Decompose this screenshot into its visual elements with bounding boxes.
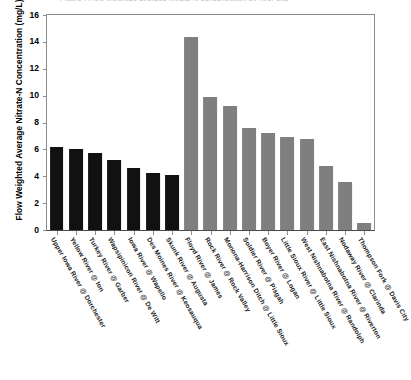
- y-tick: 2: [0, 203, 46, 204]
- x-tick-mark: [345, 231, 346, 235]
- x-axis-label: Yellow River @ Ion: [69, 236, 106, 293]
- bar-slot: [143, 15, 162, 230]
- bar: [338, 182, 352, 230]
- bar: [69, 149, 83, 230]
- bar: [223, 106, 237, 230]
- x-tick-mark: [249, 231, 250, 235]
- y-tick-label: 2: [34, 198, 39, 208]
- bar: [146, 173, 160, 230]
- x-tick-mark: [211, 231, 212, 235]
- bar-slot: [278, 15, 297, 230]
- y-tick: 0: [0, 230, 46, 231]
- y-tick-mark: [43, 203, 47, 204]
- bar: [184, 37, 198, 231]
- bar-slot: [259, 15, 278, 230]
- bar: [261, 133, 275, 230]
- y-tick-label: 0: [34, 225, 39, 235]
- y-tick-mark: [43, 96, 47, 97]
- y-tick-label: 6: [34, 144, 39, 154]
- bar-slot: [124, 15, 143, 230]
- bar-slot: [316, 15, 335, 230]
- x-tick-mark: [134, 231, 135, 235]
- bar-slot: [201, 15, 220, 230]
- x-tick-mark: [153, 231, 154, 235]
- x-tick-mark: [114, 231, 115, 235]
- x-tick-mark: [287, 231, 288, 235]
- bar: [242, 128, 256, 230]
- y-tick-label: 4: [34, 171, 39, 181]
- bar: [204, 97, 218, 230]
- x-tick-mark: [230, 231, 231, 235]
- bar-slot: [105, 15, 124, 230]
- y-tick: 12: [0, 69, 46, 70]
- y-tick-label: 12: [29, 63, 39, 73]
- bar-slot: [239, 15, 258, 230]
- x-axis-label: Floyd River @ James: [184, 236, 225, 300]
- bar-slot: [297, 15, 316, 230]
- y-tick-mark: [43, 230, 47, 231]
- x-tick-mark: [76, 231, 77, 235]
- x-tick-mark: [307, 231, 308, 235]
- bar: [50, 147, 64, 230]
- x-tick-mark: [364, 231, 365, 235]
- y-tick: 10: [0, 96, 46, 97]
- x-tick-mark: [191, 231, 192, 235]
- y-tick-mark: [43, 42, 47, 43]
- y-tick-mark: [43, 176, 47, 177]
- y-tick-mark: [43, 149, 47, 150]
- y-tick: 14: [0, 42, 46, 43]
- x-tick-mark: [57, 231, 58, 235]
- y-tick-mark: [43, 69, 47, 70]
- y-tick-mark: [43, 15, 47, 16]
- x-tick-mark: [95, 231, 96, 235]
- y-tick-mark: [43, 123, 47, 124]
- y-tick-label: 14: [29, 36, 39, 46]
- y-tick-label: 10: [29, 90, 39, 100]
- bar: [107, 160, 121, 230]
- bar-slot: [355, 15, 374, 230]
- bar: [88, 153, 102, 230]
- y-tick: 16: [0, 15, 46, 16]
- bar-slot: [220, 15, 239, 230]
- bars-layer: [47, 15, 374, 230]
- bar-slot: [47, 15, 66, 230]
- x-tick-mark: [268, 231, 269, 235]
- bar: [127, 168, 141, 230]
- y-tick-label: 16: [29, 10, 39, 20]
- x-axis-labels: Upper Iowa River @ DorchesterYellow Rive…: [47, 236, 374, 380]
- bar: [281, 137, 295, 230]
- y-axis-title: Flow Weighted Average Nitrate-N Concentr…: [14, 0, 24, 225]
- bar-slot: [66, 15, 85, 230]
- x-tick-mark: [326, 231, 327, 235]
- clipped-figure-title: Figure . Flow weighted average nitrate-N…: [60, 0, 360, 1]
- bar: [165, 175, 179, 230]
- bar-slot: [182, 15, 201, 230]
- y-tick-label: 8: [34, 117, 39, 127]
- bar: [319, 166, 333, 231]
- bar-slot: [336, 15, 355, 230]
- bar: [300, 139, 314, 230]
- y-tick: 4: [0, 176, 46, 177]
- bar: [357, 223, 371, 230]
- bar-slot: [162, 15, 181, 230]
- x-tick-mark: [172, 231, 173, 235]
- y-tick: 6: [0, 149, 46, 150]
- x-axis-ticks: [47, 231, 374, 235]
- y-tick: 8: [0, 123, 46, 124]
- bar-slot: [85, 15, 104, 230]
